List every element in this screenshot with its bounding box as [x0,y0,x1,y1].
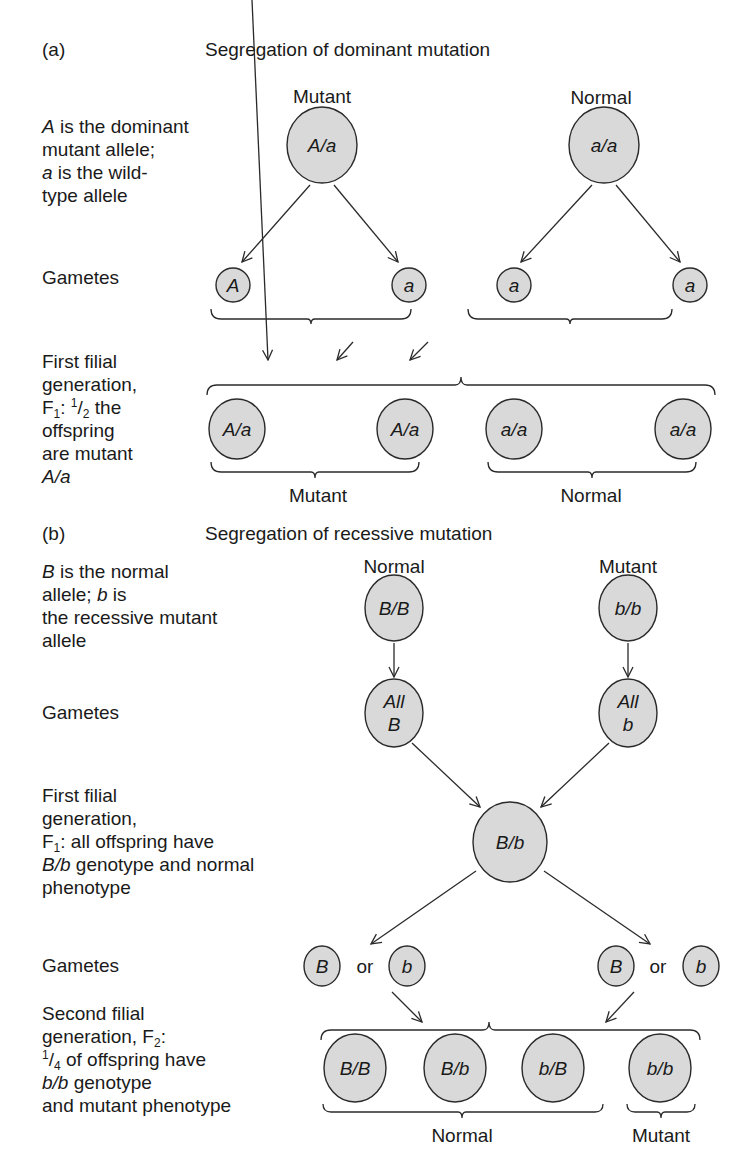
brace-icon [323,1104,603,1118]
parent-phenotype-mutant: Mutant [599,556,658,577]
svg-text:b: b [696,956,707,977]
svg-text:a/a: a/a [501,419,527,440]
row-label-gametes: Gametes [42,702,119,723]
gamete-node: B [304,946,340,986]
svg-text:a/a: a/a [591,135,617,156]
parent-node-mutant: A/a [287,107,357,183]
svg-text:B/B: B/B [340,1058,371,1079]
row-label-f1: First filialgeneration,F1: 1/2 theoffspr… [41,351,137,487]
svg-text:A/a: A/a [222,419,252,440]
svg-text:a: a [404,275,415,296]
f2-offspring-node: B/b [424,1034,486,1102]
parent-node-normal: B/B [365,575,423,641]
svg-text:All: All [616,691,639,712]
svg-text:B: B [610,956,623,977]
panel-a-row-labels: A is the dominantmutant allele;a is the … [41,116,190,487]
svg-text:B/b: B/b [441,1058,470,1079]
or-label: or [650,956,668,977]
f1-node: B/b [473,802,547,882]
genetics-segregation-diagram: (a) Segregation of dominant mutation A i… [0,0,743,1173]
arrow [410,342,428,360]
or-label: or [357,956,375,977]
svg-text:b: b [402,956,413,977]
gamete-node: a [392,268,426,302]
svg-text:B/b: B/b [496,832,525,853]
group-label-mutant: Mutant [289,485,348,506]
svg-text:b: b [623,714,634,735]
brace-icon [488,462,696,478]
svg-text:a/a: a/a [670,419,696,440]
brace-icon [207,377,715,395]
gamete-node-all-b: All b [599,679,657,747]
parent-phenotype-normal: Normal [570,87,631,108]
arrow [541,743,609,807]
brace-icon [321,1022,700,1040]
svg-text:B/B: B/B [379,598,410,619]
arrows-parents-to-gametes [242,185,680,262]
arrow [371,871,476,944]
group-label-mutant: Mutant [632,1125,691,1146]
gamete-node: b [683,946,719,986]
gamete-node: A [216,268,250,302]
svg-text:A/a: A/a [390,419,420,440]
brace-icon [468,309,672,324]
row-label-f1: First filialgeneration,F1: all offspring… [42,785,254,898]
brace-icon [627,1104,695,1118]
svg-text:A/a: A/a [307,135,337,156]
offspring-node: A/a [377,399,433,459]
row-label-gametes: Gametes [42,955,119,976]
gamete-node: b [389,946,425,986]
panel-a-label: (a) [42,39,65,60]
offspring-node: A/a [209,399,265,459]
svg-text:B: B [388,714,401,735]
gamete-node: a [497,268,531,302]
svg-text:a: a [685,275,696,296]
parent-phenotype-normal: Normal [363,556,424,577]
panel-b: (b) Segregation of recessive mutation B … [42,523,719,1146]
svg-text:a: a [509,275,520,296]
brace-icon [211,462,419,478]
arrow [606,992,634,1022]
panel-b-label: (b) [42,523,65,544]
arrow [392,992,422,1022]
offspring-node: a/a [486,399,542,459]
parent-phenotype-mutant: Mutant [293,86,352,107]
svg-text:b/b: b/b [647,1058,673,1079]
svg-text:A: A [226,275,240,296]
arrow [544,871,650,944]
gamete-node: a [673,268,707,302]
group-label-normal: Normal [560,485,621,506]
row-label-alleles: A is the dominantmutant allele;a is the … [41,116,190,206]
f2-offspring-node: b/B [522,1034,584,1102]
row-label-f2: Second filialgeneration, F2:1/4 of offsp… [42,1003,231,1116]
f2-offspring-node: B/B [324,1034,386,1102]
f2-offspring-node: b/b [629,1034,691,1102]
row-label-gametes: Gametes [42,267,119,288]
svg-text:All: All [382,691,405,712]
svg-text:b/b: b/b [615,598,641,619]
parent-node-normal: a/a [569,107,639,183]
panel-a-title: Segregation of dominant mutation [205,39,490,60]
arrow [337,342,353,360]
arrow [412,743,480,807]
row-label-alleles: B is the normalallele; b isthe recessive… [42,561,218,651]
parent-node-mutant: b/b [599,575,657,641]
gamete-node: B [598,946,634,986]
svg-text:b/B: b/B [539,1058,568,1079]
group-label-normal: Normal [431,1125,492,1146]
offspring-node: a/a [655,399,711,459]
brace-icon [211,309,411,324]
panel-a: (a) Segregation of dominant mutation A i… [41,0,715,506]
gamete-node-all-B: All B [365,679,423,747]
panel-b-row-labels: B is the normalallele; b isthe recessive… [42,561,254,1116]
svg-text:B: B [316,956,329,977]
panel-b-title: Segregation of recessive mutation [205,523,492,544]
